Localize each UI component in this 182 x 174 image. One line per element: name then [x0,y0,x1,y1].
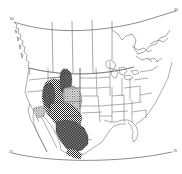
state-border-tn-nc-ga [126,102,142,104]
corner-label-top-right: 60 [174,8,178,12]
map-figure: 60 60 25 25 [0,0,182,174]
east-coast-outline [136,62,172,124]
province-border-ab-sk [72,21,73,73]
lake-huron [119,67,127,75]
lake-erie [124,75,133,80]
pacific-coast-outline [14,22,30,75]
state-border-ga-sc [132,110,146,112]
coastal-island-3 [19,45,21,49]
state-border-sd-ia [97,87,110,88]
gulf-st-lawrence-outline [136,56,152,62]
shaded-region-baja-fringe [33,106,46,118]
lake-ontario [131,70,139,75]
corner-label-bottom-left: 25 [9,150,13,154]
state-border-pa-md [134,78,148,80]
state-border-ny-pa [140,70,152,72]
state-border-va-nc [140,93,152,95]
graticule-bottom-parallel [12,152,172,160]
province-border-sk-mb [92,20,93,73]
corner-label-top-left: 60 [10,17,14,21]
graticule-top-parallel [14,11,176,31]
state-border-tn-ms-al [112,111,128,112]
canada-group [14,20,170,75]
coastal-island-1 [15,30,17,33]
corner-label-bottom-right: 25 [173,149,177,153]
state-border-wa-or [29,78,48,80]
state-border-nd-mn [97,77,110,78]
state-border-nh-me [156,58,162,62]
newfoundland-outline [150,38,168,44]
shaded-region-sierra-madre [56,120,88,152]
north-america-map-svg: 60 60 25 25 [0,0,182,174]
overlay-canada-us-border [29,67,134,74]
eastern-canada-outline [112,30,170,54]
state-border-nd-sd-mn [96,68,97,96]
state-border-ks-mo-ar-tx [98,96,100,122]
graticule-group [12,11,176,160]
state-border-ny-vt-nh [152,66,158,70]
coastal-island-2 [17,37,19,41]
lake-michigan [111,69,118,78]
state-border-oh-wv [124,86,140,88]
lake-superior [106,60,116,69]
coastal-island-4 [21,53,23,58]
state-border-mo-ar [100,105,112,106]
